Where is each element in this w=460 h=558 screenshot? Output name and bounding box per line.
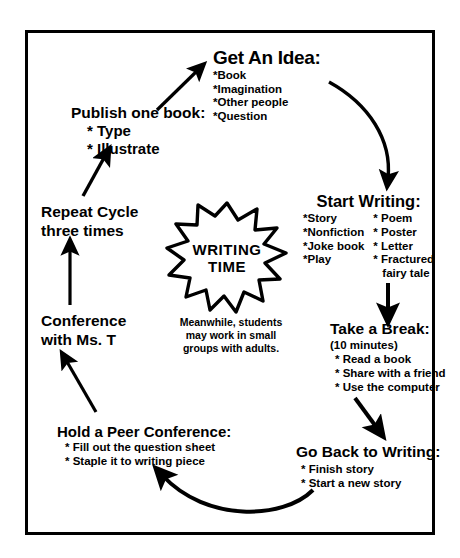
- node-item-list-column-2: * Poem * Poster * Letter * Fractured fai…: [373, 212, 434, 281]
- list-item: *Imagination: [213, 83, 321, 97]
- node-item-list: * Type * Illustrate: [71, 122, 205, 157]
- node-repeat-cycle[interactable]: Repeat Cycle three times: [41, 203, 138, 240]
- node-title: Go Back to Writing:: [296, 443, 440, 461]
- node-title-line2: with Ms. T: [41, 331, 126, 350]
- list-item: *Book: [213, 69, 321, 83]
- list-item: * Fractured: [373, 253, 434, 267]
- node-title: Get An Idea:: [213, 47, 321, 68]
- list-item: * Use the computer: [335, 380, 446, 394]
- list-item: * Poem: [373, 212, 434, 226]
- note-line: may work in small: [167, 329, 295, 342]
- node-publish-one-book[interactable]: Publish one book: * Type * Illustrate: [71, 104, 205, 157]
- node-item-list: *Book *Imagination *Other people *Questi…: [213, 69, 321, 123]
- list-item: * Type: [87, 122, 205, 140]
- list-item: * Letter: [373, 240, 434, 254]
- node-title: Publish one book:: [71, 104, 205, 122]
- list-item: *Question: [213, 110, 321, 124]
- list-item: *Joke book: [303, 240, 364, 254]
- node-title-line1: Conference: [41, 312, 126, 331]
- node-go-back-to-writing[interactable]: Go Back to Writing: * Finish story * Sta…: [296, 443, 440, 490]
- node-item-list: * Finish story * Start a new story: [296, 462, 440, 490]
- list-item: *Nonfiction: [303, 226, 364, 240]
- list-item: * Share with a friend: [335, 366, 446, 380]
- node-get-an-idea[interactable]: Get An Idea: *Book *Imagination *Other p…: [213, 47, 321, 123]
- node-title-line1: Repeat Cycle: [41, 203, 138, 222]
- node-title: Start Writing:: [303, 192, 434, 211]
- starburst-line1: WRITING: [192, 241, 261, 258]
- node-take-a-break[interactable]: Take a Break: (10 minutes) * Read a book…: [330, 320, 446, 394]
- node-conference-with-ms-t[interactable]: Conference with Ms. T: [41, 312, 126, 349]
- node-hold-a-peer-conference[interactable]: Hold a Peer Conference: * Fill out the q…: [57, 423, 231, 468]
- list-item-continuation: fairy tale: [373, 267, 434, 281]
- note-line: Meanwhile, students: [167, 316, 295, 329]
- list-item: *Story: [303, 212, 364, 226]
- list-item: * Illustrate: [87, 140, 205, 158]
- list-item: * Finish story: [301, 462, 440, 476]
- node-item-list-column-1: *Story *Nonfiction *Joke book *Play: [303, 212, 364, 281]
- node-item-list: * Read a book * Share with a friend * Us…: [330, 352, 446, 394]
- node-columns: *Story *Nonfiction *Joke book *Play * Po…: [303, 212, 434, 281]
- node-title-line2: three times: [41, 222, 138, 241]
- starburst-label: WRITING TIME: [165, 200, 289, 315]
- node-start-writing[interactable]: Start Writing: *Story *Nonfiction *Joke …: [303, 192, 434, 281]
- node-subtitle: (10 minutes): [330, 338, 446, 352]
- list-item: * Staple it to writing piece: [65, 455, 231, 469]
- node-item-list: * Fill out the question sheet * Staple i…: [57, 441, 231, 468]
- list-item: * Start a new story: [301, 476, 440, 490]
- list-item: * Read a book: [335, 352, 446, 366]
- note-line: groups with adults.: [167, 342, 295, 355]
- starburst-line2: TIME: [208, 258, 246, 275]
- list-item: *Other people: [213, 96, 321, 110]
- node-title: Take a Break:: [330, 320, 446, 338]
- writing-time-starburst: WRITING TIME: [165, 200, 289, 315]
- list-item: *Play: [303, 253, 364, 267]
- node-title: Hold a Peer Conference:: [57, 423, 231, 440]
- meanwhile-note: Meanwhile, students may work in small gr…: [167, 316, 295, 355]
- list-item: * Poster: [373, 226, 434, 240]
- list-item: * Fill out the question sheet: [65, 441, 231, 455]
